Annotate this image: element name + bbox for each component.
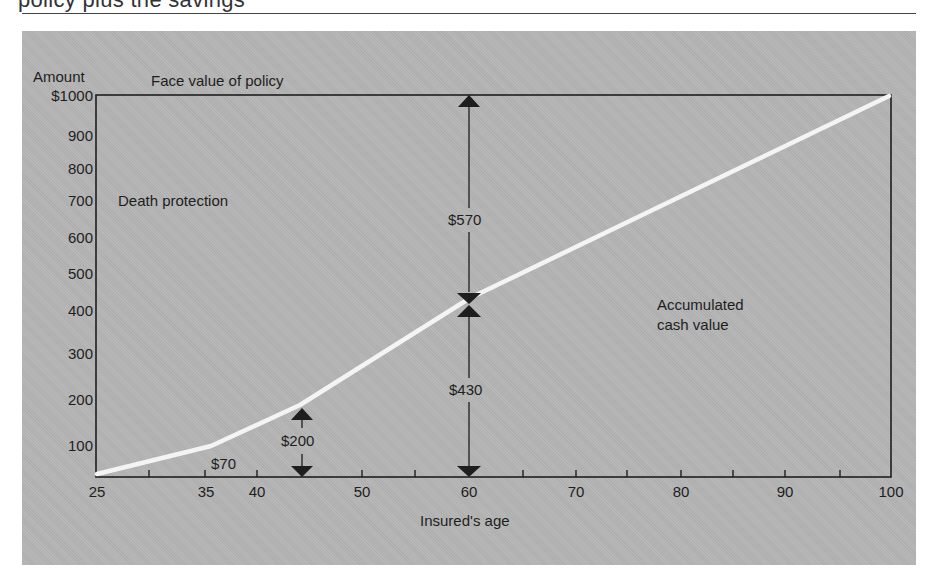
y-tick-label: 300 bbox=[33, 345, 93, 362]
y-tick-label: 200 bbox=[33, 391, 93, 408]
value-430-label: $430 bbox=[449, 381, 482, 398]
value-200-label: $200 bbox=[281, 432, 314, 449]
y-tick-label: 900 bbox=[33, 127, 93, 144]
face-value-label: Face value of policy bbox=[151, 72, 284, 89]
x-tick-label: 60 bbox=[461, 483, 478, 500]
x-tick-label: 35 bbox=[198, 483, 215, 500]
y-tick-label: 700 bbox=[33, 192, 93, 209]
y-tick-label: 400 bbox=[33, 302, 93, 319]
x-tick-label: 25 bbox=[89, 483, 106, 500]
y-tick-label: 500 bbox=[33, 265, 93, 282]
value-570-label: $570 bbox=[448, 211, 481, 228]
y-tick-label: 800 bbox=[33, 160, 93, 177]
x-tick-label: 90 bbox=[777, 483, 794, 500]
x-tick-label: 100 bbox=[878, 483, 903, 500]
arrow-570 bbox=[457, 95, 481, 304]
death-protection-label: Death protection bbox=[118, 192, 228, 209]
y-tick-label: $1000 bbox=[33, 87, 93, 104]
value-70-label: $70 bbox=[211, 455, 236, 472]
x-axis-title: Insured's age bbox=[420, 512, 510, 529]
x-tick-label: 40 bbox=[249, 483, 266, 500]
y-axis-title: Amount bbox=[33, 68, 85, 85]
accumulated-line-2: cash value bbox=[657, 315, 744, 335]
x-tick-label: 50 bbox=[354, 483, 371, 500]
accumulated-line-1: Accumulated bbox=[657, 295, 744, 315]
cash-value-line bbox=[97, 96, 889, 474]
accumulated-cash-value-label: Accumulated cash value bbox=[657, 295, 744, 335]
x-tick-marks bbox=[149, 470, 840, 477]
y-tick-label: 600 bbox=[33, 229, 93, 246]
y-tick-label: 100 bbox=[33, 437, 93, 454]
x-tick-label: 70 bbox=[568, 483, 585, 500]
x-tick-label: 80 bbox=[673, 483, 690, 500]
